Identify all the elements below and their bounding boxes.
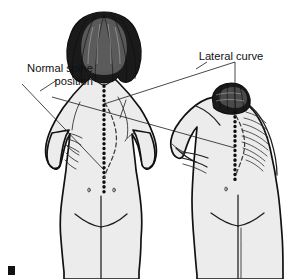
normal-spine-label-line1: Normal spine [27,62,93,74]
scoliosis-illustration: Normal spine position Lateral curve [0,0,295,279]
lateral-curve-label: Lateral curve [199,50,264,62]
lateral-curve-leader-hook [196,62,207,69]
standing-figure [46,12,157,279]
normal-spine-label-line2: position [54,75,93,87]
standing-figure-hand-left [47,130,69,168]
bending-figure [171,83,283,279]
corner-marker [8,266,15,275]
bending-figure-hair [212,83,250,114]
scoliosis-diagram-svg: Normal spine position Lateral curve [0,0,295,279]
standing-figure-hand-right [133,130,155,168]
